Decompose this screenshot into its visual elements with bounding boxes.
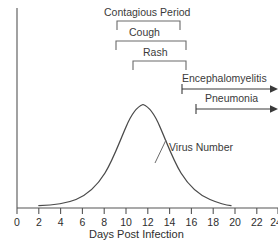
chart-figure: Contagious Period Cough Rash Encephalomy… — [0, 0, 278, 241]
cough-label: Cough — [129, 27, 160, 38]
x-tick-label-20: 20 — [225, 217, 245, 228]
x-axis-title: Days Post Infection — [89, 229, 184, 240]
x-tick-label-8: 8 — [94, 217, 114, 228]
x-tick-label-6: 6 — [72, 217, 92, 228]
virus-number-leader-line — [155, 140, 166, 163]
rash-label: Rash — [143, 47, 168, 58]
x-tick-label-16: 16 — [181, 217, 201, 228]
contagious-period-label: Contagious Period — [104, 7, 190, 18]
rash-bracket — [133, 61, 186, 70]
x-tick-label-24: 24 — [266, 217, 278, 228]
encephalomyelitis-label: Encephalomyelitis — [182, 73, 267, 84]
x-tick-label-18: 18 — [203, 217, 223, 228]
pneumonia-arrow — [196, 104, 278, 114]
x-axis-ticks — [17, 208, 278, 214]
x-tick-label-10: 10 — [116, 217, 136, 228]
virus-number-curve — [39, 105, 231, 206]
x-tick-label-22: 22 — [247, 217, 267, 228]
x-tick-label-0: 0 — [7, 217, 27, 228]
pneumonia-label: Pneumonia — [205, 93, 258, 104]
x-tick-label-12: 12 — [138, 217, 158, 228]
x-tick-label-14: 14 — [160, 217, 180, 228]
virus-number-label: Virus Number — [169, 142, 233, 153]
x-tick-label-4: 4 — [51, 217, 71, 228]
x-tick-label-2: 2 — [29, 217, 49, 228]
